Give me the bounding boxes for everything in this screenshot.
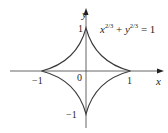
x-axis-arrow-icon: [157, 69, 164, 74]
eq-x-exponent: 2/3: [105, 22, 113, 29]
x-axis-label: x: [155, 75, 161, 87]
eq-y-exponent: 2/3: [130, 22, 138, 29]
eq-plus: +: [113, 23, 125, 35]
y-axis-label: y: [81, 8, 87, 20]
astroid-diagram: y x 1 −1 −1 1 0 x2/3 + y2/3 = 1: [0, 0, 168, 133]
x-tick-1: 1: [127, 75, 132, 86]
diagram-canvas: y x 1 −1 −1 1 0: [0, 0, 168, 133]
y-tick-neg1: −1: [66, 109, 77, 120]
y-tick-1: 1: [78, 23, 83, 34]
origin-label: 0: [77, 72, 82, 83]
eq-rhs: = 1: [138, 23, 155, 35]
x-tick-neg1: −1: [32, 75, 43, 86]
equation-label: x2/3 + y2/3 = 1: [100, 22, 155, 35]
